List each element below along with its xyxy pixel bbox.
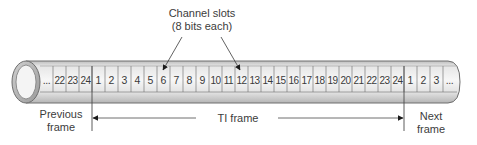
- next-frame-label: Next frame: [406, 110, 456, 136]
- slot-cur-8: 8: [187, 74, 193, 86]
- slot-cur-13: 13: [249, 75, 260, 86]
- slot-next-2: 2: [421, 74, 427, 86]
- slot-cur-16: 16: [288, 75, 299, 86]
- slot-cur-15: 15: [275, 75, 286, 86]
- slot-prev-22: 22: [54, 75, 65, 86]
- slot-cur-23: 23: [379, 75, 390, 86]
- slot-ellipsis: ...: [43, 74, 50, 86]
- frame-label: TI frame: [200, 112, 276, 125]
- previous-frame-label: Previous frame: [36, 108, 86, 134]
- slot-cur-19: 19: [327, 75, 338, 86]
- slot-cur-14: 14: [262, 75, 273, 86]
- callout-line-1: Channel slots: [162, 7, 242, 20]
- slot-cur-9: 9: [200, 74, 206, 86]
- slot-cur-6: 6: [161, 74, 167, 86]
- next-frame-line-2: frame: [406, 123, 456, 136]
- slot-cur-1: 1: [96, 74, 102, 86]
- slot-cur-21: 21: [353, 75, 364, 86]
- previous-frame-line-1: Previous: [36, 108, 86, 121]
- slot-cur-24: 24: [392, 75, 403, 86]
- slot-prev-24: 24: [80, 75, 91, 86]
- slot-cur-11: 11: [224, 75, 234, 86]
- previous-frame-line-2: frame: [36, 121, 86, 134]
- slot-ellipsis: ...: [446, 74, 453, 86]
- slot-cur-17: 17: [301, 75, 312, 86]
- slot-next-3: 3: [434, 74, 440, 86]
- slot-prev-23: 23: [67, 75, 78, 86]
- callout-label: Channel slots (8 bits each): [162, 7, 242, 33]
- slot-cur-12: 12: [236, 75, 247, 86]
- slot-cur-3: 3: [122, 74, 128, 86]
- slot-cur-5: 5: [148, 74, 154, 86]
- slot-cur-7: 7: [174, 74, 180, 86]
- slot-cur-10: 10: [210, 75, 221, 86]
- slot-cur-4: 4: [135, 74, 141, 86]
- callout-line-2: (8 bits each): [162, 20, 242, 33]
- slot-cur-2: 2: [109, 74, 115, 86]
- slot-cur-22: 22: [366, 75, 377, 86]
- slot-next-1: 1: [408, 74, 414, 86]
- next-frame-line-1: Next: [406, 110, 456, 123]
- slot-cur-18: 18: [314, 75, 325, 86]
- slot-cur-20: 20: [340, 75, 351, 86]
